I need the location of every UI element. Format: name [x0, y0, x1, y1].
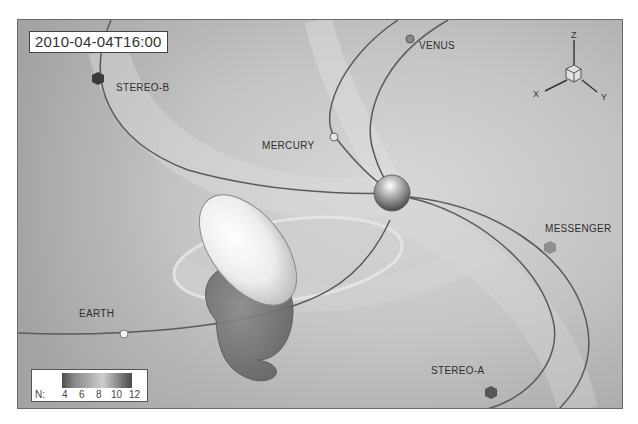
label-messenger: MESSENGER	[545, 223, 612, 234]
colorbar-tick: 8	[96, 389, 102, 400]
colorbar-legend: N: 4 6 8 10 12	[31, 369, 148, 402]
colorbar-tick: 4	[62, 389, 68, 400]
colorbar-tick: 10	[111, 389, 122, 400]
label-venus: VENUS	[419, 40, 455, 51]
timestamp-label: 2010-04-04T16:00	[29, 31, 168, 53]
scene-canvas	[18, 20, 623, 409]
axis-z-label: Z	[571, 30, 577, 40]
axis-y-label: Y	[601, 92, 607, 102]
axis-x-label: X	[533, 89, 539, 99]
earth-marker[interactable]	[120, 330, 128, 338]
venus-marker[interactable]	[406, 35, 414, 43]
sun	[374, 175, 410, 211]
label-stereo-b: STEREO-B	[116, 82, 170, 93]
label-stereo-a: STEREO-A	[431, 365, 485, 376]
label-earth: EARTH	[79, 308, 114, 319]
label-mercury: MERCURY	[262, 140, 314, 151]
colorbar-tick: 12	[129, 389, 140, 400]
colorbar-title: N:	[35, 389, 45, 400]
colorbar-gradient	[62, 373, 132, 388]
colorbar-tick: 6	[79, 389, 85, 400]
mercury-marker[interactable]	[330, 133, 338, 141]
heliosphere-viewport[interactable]: 2010-04-04T16:00 STEREO-B VENUS MERCURY …	[17, 19, 623, 409]
